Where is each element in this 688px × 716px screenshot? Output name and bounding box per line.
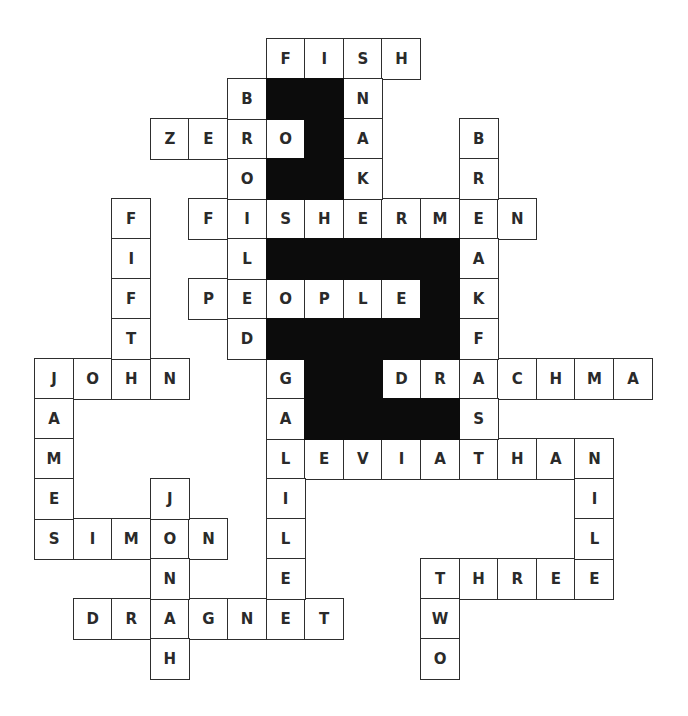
crossword-cell[interactable]: N	[343, 78, 383, 120]
crossword-cell[interactable]: A	[150, 598, 190, 640]
black-block-cell	[304, 238, 344, 280]
crossword-cell[interactable]: M	[420, 198, 460, 240]
crossword-cell[interactable]: I	[381, 438, 421, 480]
crossword-cell[interactable]: T	[420, 558, 460, 600]
crossword-cell[interactable]: H	[111, 358, 151, 400]
crossword-cell[interactable]: C	[497, 358, 537, 400]
crossword-cell[interactable]: I	[574, 478, 614, 520]
crossword-cell[interactable]: L	[227, 238, 267, 280]
crossword-cell[interactable]: N	[150, 558, 190, 600]
crossword-cell[interactable]: Z	[150, 118, 190, 160]
crossword-cell[interactable]: F	[266, 38, 306, 80]
crossword-cell[interactable]: B	[459, 118, 499, 160]
black-block-cell	[381, 238, 421, 280]
crossword-cell[interactable]: E	[304, 438, 344, 480]
crossword-cell[interactable]: M	[34, 438, 74, 480]
crossword-cell[interactable]: J	[34, 358, 74, 400]
crossword-cell[interactable]: I	[304, 38, 344, 80]
crossword-cell[interactable]: D	[73, 598, 113, 640]
crossword-cell[interactable]: E	[266, 558, 306, 600]
crossword-cell[interactable]: K	[459, 278, 499, 320]
crossword-cell[interactable]: T	[459, 438, 499, 480]
black-block-cell	[304, 318, 344, 360]
crossword-cell[interactable]: O	[266, 118, 306, 160]
black-block-cell	[304, 118, 344, 160]
crossword-cell[interactable]: M	[574, 358, 614, 400]
crossword-cell[interactable]: S	[343, 38, 383, 80]
crossword-cell[interactable]: D	[227, 318, 267, 360]
crossword-cell[interactable]: O	[73, 358, 113, 400]
crossword-cell[interactable]: A	[459, 238, 499, 280]
crossword-cell[interactable]: H	[150, 638, 190, 680]
crossword-cell[interactable]: S	[459, 398, 499, 440]
crossword-cell[interactable]: T	[111, 318, 151, 360]
black-block-cell	[343, 358, 383, 400]
crossword-cell[interactable]: N	[188, 518, 228, 560]
crossword-cell[interactable]: L	[266, 518, 306, 560]
crossword-cell[interactable]: I	[227, 198, 267, 240]
crossword-cell[interactable]: H	[304, 198, 344, 240]
crossword-cell[interactable]: K	[343, 158, 383, 200]
crossword-cell[interactable]: F	[188, 198, 228, 240]
crossword-cell[interactable]: R	[420, 358, 460, 400]
crossword-cell[interactable]: H	[459, 558, 499, 600]
crossword-cell[interactable]: H	[381, 38, 421, 80]
black-block-cell	[266, 238, 306, 280]
crossword-cell[interactable]: A	[536, 438, 576, 480]
crossword-cell[interactable]: N	[150, 358, 190, 400]
crossword-cell[interactable]: S	[266, 198, 306, 240]
crossword-cell[interactable]: R	[111, 598, 151, 640]
crossword-cell[interactable]: E	[188, 118, 228, 160]
crossword-cell[interactable]: P	[188, 278, 228, 320]
crossword-cell[interactable]: O	[420, 638, 460, 680]
crossword-cell[interactable]: I	[111, 238, 151, 280]
crossword-cell[interactable]: A	[266, 398, 306, 440]
crossword-cell[interactable]: N	[574, 438, 614, 480]
crossword-cell[interactable]: E	[574, 558, 614, 600]
crossword-cell[interactable]: E	[459, 198, 499, 240]
crossword-cell[interactable]: E	[343, 198, 383, 240]
crossword-cell[interactable]: L	[266, 438, 306, 480]
crossword-cell[interactable]: E	[266, 598, 306, 640]
crossword-cell[interactable]: F	[459, 318, 499, 360]
crossword-cell[interactable]: O	[266, 278, 306, 320]
crossword-cell[interactable]: E	[227, 278, 267, 320]
crossword-cell[interactable]: B	[227, 78, 267, 120]
crossword-cell[interactable]: E	[381, 278, 421, 320]
crossword-cell[interactable]: R	[227, 118, 267, 160]
crossword-cell[interactable]: A	[459, 358, 499, 400]
crossword-cell[interactable]: L	[574, 518, 614, 560]
crossword-cell[interactable]: O	[150, 518, 190, 560]
crossword-cell[interactable]: F	[111, 278, 151, 320]
crossword-cell[interactable]: G	[266, 358, 306, 400]
crossword-cell[interactable]: W	[420, 598, 460, 640]
crossword-cell[interactable]: R	[459, 158, 499, 200]
crossword-cell[interactable]: I	[73, 518, 113, 560]
crossword-cell[interactable]: G	[188, 598, 228, 640]
crossword-cell[interactable]: R	[381, 198, 421, 240]
crossword-cell[interactable]: P	[304, 278, 344, 320]
crossword-cell[interactable]: F	[111, 198, 151, 240]
crossword-cell[interactable]: N	[227, 598, 267, 640]
crossword-cell[interactable]: T	[304, 598, 344, 640]
crossword-cell[interactable]: L	[343, 278, 383, 320]
crossword-cell[interactable]: E	[34, 478, 74, 520]
crossword-cell[interactable]: E	[536, 558, 576, 600]
black-block-cell	[420, 398, 460, 440]
crossword-cell[interactable]: R	[497, 558, 537, 600]
crossword-cell[interactable]: H	[536, 358, 576, 400]
crossword-cell[interactable]: S	[34, 518, 74, 560]
crossword-cell[interactable]: J	[150, 478, 190, 520]
crossword-cell[interactable]: N	[497, 198, 537, 240]
crossword-cell[interactable]: I	[266, 478, 306, 520]
crossword-cell[interactable]: A	[613, 358, 653, 400]
crossword-cell[interactable]: V	[343, 438, 383, 480]
crossword-cell[interactable]: O	[227, 158, 267, 200]
crossword-cell[interactable]: A	[420, 438, 460, 480]
crossword-cell[interactable]: H	[497, 438, 537, 480]
crossword-cell[interactable]: D	[381, 358, 421, 400]
crossword-cell[interactable]: A	[34, 398, 74, 440]
crossword-cell[interactable]: A	[343, 118, 383, 160]
black-block-cell	[304, 158, 344, 200]
crossword-cell[interactable]: M	[111, 518, 151, 560]
